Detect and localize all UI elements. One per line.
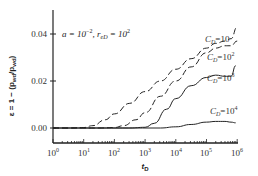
x-tick-label: 102 <box>108 147 120 158</box>
x-tick-label: 103 <box>139 147 151 158</box>
series-label-cd10000: CD=104 <box>210 105 237 117</box>
y-tick-label: 0.00 <box>31 123 47 133</box>
x-axis-label: tD <box>141 162 149 172</box>
series-label-cd10: CD=10 <box>205 34 230 45</box>
x-tick-label: 101 <box>78 147 90 158</box>
y-tick-label: 0.02 <box>31 76 47 86</box>
y-axis-label: ε = 1 − (pwd/pwd) <box>7 55 17 116</box>
x-tick-labels: 100 101 102 103 104 105 106 <box>47 147 243 158</box>
x-tick-label: 106 <box>231 147 243 158</box>
series-label-cd1000: CD=103 <box>207 72 234 84</box>
parameter-annotation: a = 10−2, reD = 102 <box>62 28 130 40</box>
y-tick-label: 0.04 <box>31 29 47 39</box>
x-tick-label: 100 <box>47 147 59 158</box>
x-tick-label: 104 <box>170 147 182 158</box>
x-tick-label: 105 <box>200 147 212 158</box>
chart: 0.00 0.02 0.04 100 101 102 103 104 105 1… <box>0 0 258 176</box>
series-label-cd100: CD=102 <box>207 51 234 63</box>
